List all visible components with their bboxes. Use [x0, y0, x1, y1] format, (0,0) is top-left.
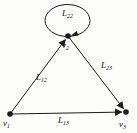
- edge-label-L13: L13: [57, 115, 69, 126]
- self-loop-v2: [45, 5, 90, 37]
- edge-v1-v3: [10, 112, 122, 114]
- node-label-v2: v2: [62, 40, 69, 51]
- graph-diagram: v1 v2 v3 L12 L23 L13 L22: [0, 0, 137, 133]
- edge-label-L23: L23: [100, 60, 112, 71]
- edge-v2-v3: [68, 36, 123, 109]
- graph-svg: v1 v2 v3 L12 L23 L13 L22: [0, 0, 137, 133]
- edge-label-L22: L22: [61, 8, 73, 19]
- node-v2: [65, 33, 71, 39]
- node-v1: [7, 111, 13, 117]
- node-label-v3: v3: [119, 119, 126, 130]
- node-v3: [123, 109, 129, 115]
- self-loop-arrowhead-icon: [71, 31, 79, 36]
- edge-label-L12: L12: [35, 72, 47, 83]
- node-label-v1: v1: [3, 118, 10, 129]
